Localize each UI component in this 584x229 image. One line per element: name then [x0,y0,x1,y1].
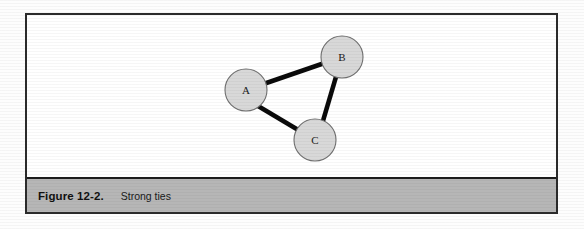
network-graph: A B C [27,15,556,177]
scanned-page: A B C Figure 12-2. Strong ties [0,0,584,229]
figure-caption-number: Figure 12-2. [38,190,104,202]
node-c-label: C [311,134,318,146]
figure-frame: A B C Figure 12-2. Strong ties [25,13,558,214]
graph-nodes: A B C [225,36,363,161]
node-a-label: A [242,84,250,96]
node-a[interactable]: A [225,69,267,111]
illustration-area: A B C [27,15,556,177]
figure-caption-title: Strong ties [121,190,171,202]
node-b-label: B [338,51,345,63]
node-b[interactable]: B [321,36,363,78]
figure-caption-bar: Figure 12-2. Strong ties [27,179,556,212]
node-c[interactable]: C [294,119,336,161]
